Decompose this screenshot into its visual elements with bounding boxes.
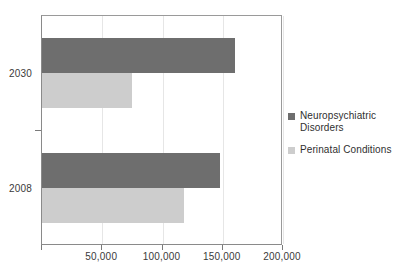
y-tick-mark (35, 130, 41, 131)
legend-swatch-icon (288, 147, 295, 154)
x-tick-label-100000: 100,000 (143, 251, 181, 262)
x-tick-mark (101, 245, 102, 250)
x-tick-label-200000: 200,000 (263, 251, 301, 262)
legend-label: Neuropsychiatric Disorders (300, 110, 408, 134)
y-tick-label-2008: 2008 (9, 182, 32, 193)
legend-label: Perinatal Conditions (300, 144, 392, 156)
legend-swatch-icon (288, 113, 295, 120)
bar-2030-perinatal-conditions[interactable] (42, 73, 132, 108)
x-tick-mark (41, 245, 42, 250)
bar-2008-neuropsychiatric-disorders[interactable] (42, 153, 220, 188)
legend-entry-perinatal-conditions[interactable]: Perinatal Conditions (288, 144, 408, 156)
y-tick-label-2030: 2030 (9, 67, 32, 78)
bar-2008-perinatal-conditions[interactable] (42, 188, 184, 223)
x-tick-label-150000: 150,000 (203, 251, 241, 262)
chart-legend: Neuropsychiatric DisordersPerinatal Cond… (288, 110, 408, 166)
gridline (283, 16, 284, 244)
x-tick-mark (162, 245, 163, 250)
x-tick-mark (222, 245, 223, 250)
bar-chart: 50,000100,000150,000200,000 20302008 Neu… (0, 0, 411, 278)
bar-2030-neuropsychiatric-disorders[interactable] (42, 38, 235, 73)
legend-entry-neuropsychiatric-disorders[interactable]: Neuropsychiatric Disorders (288, 110, 408, 134)
x-tick-mark (282, 245, 283, 250)
x-tick-label-50000: 50,000 (85, 251, 117, 262)
